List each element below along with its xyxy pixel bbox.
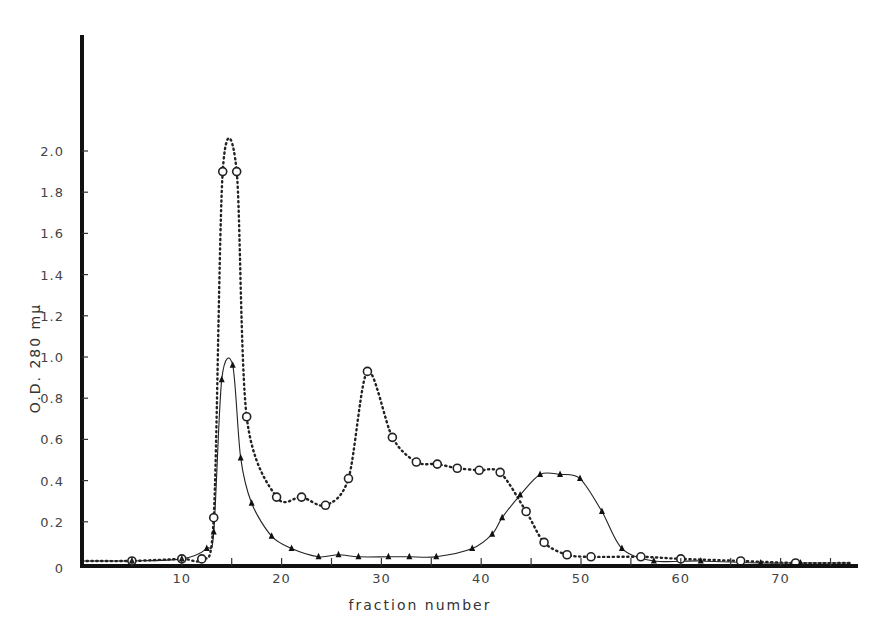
circle-marker	[540, 538, 548, 546]
triangle-marker	[406, 553, 412, 560]
triangle-marker	[577, 475, 583, 482]
y-axis-label: O.D. 280 mμ	[27, 303, 43, 413]
triangle-marker	[230, 361, 236, 368]
circle-series-line	[82, 138, 850, 563]
circle-marker	[563, 551, 571, 559]
circle-marker	[219, 168, 227, 176]
y-tick-label: 0.8	[40, 391, 64, 406]
triangle-marker	[211, 528, 217, 535]
circle-marker	[412, 458, 420, 466]
y-tick-label: 2.0	[40, 144, 64, 159]
circle-marker	[637, 553, 645, 561]
plot-markers	[128, 168, 804, 567]
y-tick-label: 0.2	[40, 515, 64, 530]
triangle-marker	[335, 551, 341, 558]
circle-marker	[475, 466, 483, 474]
triangle-marker	[355, 553, 361, 560]
triangle-series-line	[82, 358, 850, 563]
circle-marker	[453, 464, 461, 472]
circle-marker	[233, 168, 241, 176]
y-tick-label: 0	[55, 561, 64, 576]
circle-marker	[344, 475, 352, 483]
circle-marker	[433, 460, 441, 468]
circle-marker	[587, 553, 595, 561]
x-tick-label: 40	[472, 571, 491, 586]
circle-marker	[737, 557, 745, 565]
circle-marker	[273, 493, 281, 501]
triangle-marker	[249, 499, 255, 506]
plot-lines	[82, 138, 850, 563]
circle-marker	[322, 501, 330, 509]
y-tick-label: 1.0	[40, 350, 64, 365]
triangle-marker	[385, 553, 391, 560]
circle-marker	[388, 433, 396, 441]
y-tick-label: 0.6	[40, 432, 64, 447]
y-tick-label: 0.4	[40, 474, 64, 489]
x-tick-label: 60	[672, 571, 691, 586]
x-axis-label: fraction number	[349, 597, 492, 613]
x-tick-label: 70	[771, 571, 790, 586]
y-tick-label: 1.8	[40, 185, 64, 200]
circle-marker	[298, 493, 306, 501]
y-tick-label: 1.6	[40, 226, 64, 241]
triangle-marker	[219, 376, 225, 383]
x-tick-label: 30	[372, 571, 391, 586]
circle-marker	[496, 468, 504, 476]
y-tick-label: 1.2	[40, 309, 64, 324]
circle-marker	[243, 413, 251, 421]
circle-marker	[210, 514, 218, 522]
x-tick-label: 50	[572, 571, 591, 586]
chromatography-chart: 00.20.40.60.81.01.21.41.61.82.0 10203040…	[0, 0, 887, 632]
y-tick-label: 1.4	[40, 268, 64, 283]
x-tick-label: 10	[173, 571, 192, 586]
circle-marker	[363, 367, 371, 375]
x-tick-label: 20	[272, 571, 291, 586]
triangle-marker	[238, 454, 244, 461]
circle-marker	[522, 508, 530, 516]
circle-marker	[198, 555, 206, 563]
